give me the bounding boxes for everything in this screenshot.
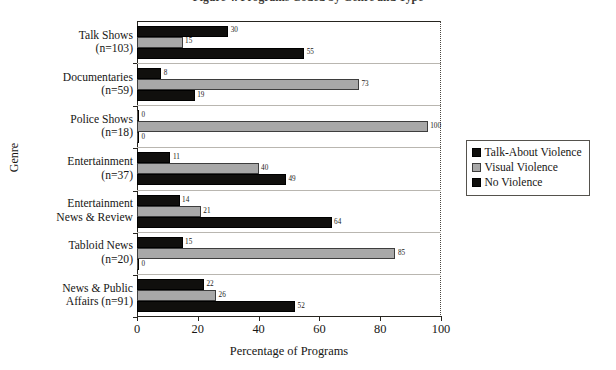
bar-item: 0 (137, 259, 441, 270)
y-axis-label-line: News & Public (9, 282, 133, 295)
figure-container: Figure 4. Programs Coded by Genre and Ty… (0, 0, 616, 370)
bar-value-label: 15 (185, 239, 192, 246)
bar (137, 163, 259, 174)
bar-stack: 01000 (137, 106, 441, 147)
bar-value-label: 64 (334, 219, 341, 226)
bar-item: 21 (137, 206, 441, 217)
bar-value-label: 11 (173, 154, 180, 161)
y-axis-label-line: Documentaries (9, 71, 133, 84)
legend-swatch (472, 148, 481, 157)
bar (137, 248, 395, 259)
bar-item: 0 (137, 132, 441, 143)
bar (137, 121, 428, 132)
bar-value-label: 21 (203, 208, 210, 215)
bar-value-label: 0 (142, 261, 146, 268)
bar-stack: 301555 (137, 21, 441, 63)
x-axis-tick-label: 0 (134, 322, 140, 337)
x-axis-tick (319, 316, 320, 321)
x-axis-tick-label: 60 (313, 322, 325, 337)
bar (137, 26, 228, 37)
bar-item: 64 (137, 217, 441, 228)
y-axis-category-label: Talk Shows(n=103) (9, 29, 133, 56)
y-axis-label-line: Entertainment (9, 155, 133, 168)
y-axis-label-line: (n=103) (9, 42, 133, 55)
x-axis-tick-labels: 020406080100 (137, 322, 441, 338)
bar-group: 301555 (137, 21, 441, 63)
bar-stack: 114049 (137, 148, 441, 189)
bar (137, 37, 183, 48)
x-axis-tick (259, 316, 260, 321)
bar-item: 14 (137, 195, 441, 206)
bar-item: 52 (137, 301, 441, 312)
bar (137, 290, 216, 301)
chart-legend: Talk-About ViolenceVisual ViolenceNo Vio… (466, 140, 590, 196)
bar (137, 90, 195, 101)
legend-item: Visual Violence (472, 160, 582, 175)
x-axis-tick-label: 20 (192, 322, 204, 337)
bar-item: 49 (137, 174, 441, 185)
bar-item: 11 (137, 152, 441, 163)
bar-item: 8 (137, 68, 441, 79)
bar (137, 174, 286, 185)
bar-value-label: 0 (142, 112, 146, 119)
y-axis-category-label: Police Shows(n=18) (9, 113, 133, 140)
bar (137, 68, 161, 79)
bar-item: 19 (137, 90, 441, 101)
bar-item: 73 (137, 79, 441, 90)
bar-item: 30 (137, 26, 441, 37)
bar-value-label: 22 (206, 281, 213, 288)
bar-item: 100 (137, 121, 441, 132)
bar-item: 85 (137, 248, 441, 259)
y-axis-category-label: News & PublicAffairs (n=91) (9, 282, 133, 309)
y-axis-label-line: (n=20) (9, 253, 133, 266)
bar (137, 217, 332, 228)
bar (137, 206, 201, 217)
bar-value-label: 73 (361, 81, 368, 88)
bar (137, 48, 304, 59)
x-axis-tick (441, 316, 442, 321)
bar-item: 26 (137, 290, 441, 301)
bar-value-label: 30 (231, 27, 238, 34)
bar-value-label: 52 (298, 303, 305, 310)
y-axis-category-labels: Talk Shows(n=103)Documentaries(n=59)Poli… (6, 21, 133, 316)
legend-item: No Violence (472, 175, 582, 190)
bar-value-label: 49 (288, 176, 295, 183)
bar-group: 01000 (137, 105, 441, 147)
bar-item: 15 (137, 237, 441, 248)
bar-group: 15850 (137, 232, 441, 274)
bar (137, 110, 139, 121)
bar-value-label: 15 (185, 38, 192, 45)
figure-title: Figure 4. Programs Coded by Genre and Ty… (0, 0, 616, 3)
y-axis-category-label: EntertainmentNews & Review (9, 197, 133, 224)
bar (137, 152, 170, 163)
y-axis-label-line: Entertainment (9, 197, 133, 210)
x-axis-tick (380, 316, 381, 321)
bar-item: 0 (137, 110, 441, 121)
bar-group: 87319 (137, 63, 441, 105)
bar-rows: 301555873190100011404914216415850222652 (137, 21, 441, 316)
bar-stack: 142164 (137, 191, 441, 232)
bar-group: 142164 (137, 190, 441, 232)
bar-value-label: 19 (197, 92, 204, 99)
bar (137, 301, 295, 312)
bar-item: 55 (137, 48, 441, 59)
bar (137, 259, 139, 270)
legend-label: Visual Violence (485, 161, 558, 174)
legend-label: No Violence (485, 176, 543, 189)
y-axis-label-line: Affairs (n=91) (9, 295, 133, 308)
y-axis-label-line: Talk Shows (9, 29, 133, 42)
bar-group: 222652 (137, 274, 441, 316)
legend-swatch (472, 163, 481, 172)
x-axis-tick-label: 100 (432, 322, 451, 337)
x-axis-tick (198, 316, 199, 321)
bar (137, 195, 180, 206)
bar-stack: 87319 (137, 64, 441, 105)
bar-value-label: 26 (219, 292, 226, 299)
legend-swatch (472, 178, 481, 187)
y-axis-category-label: Entertainment(n=37) (9, 155, 133, 182)
y-axis-category-label: Documentaries(n=59) (9, 71, 133, 98)
y-axis-label-line: Tabloid News (9, 239, 133, 252)
bar-item: 22 (137, 279, 441, 290)
bar-value-label: 14 (182, 197, 189, 204)
x-axis-title: Percentage of Programs (137, 344, 441, 359)
